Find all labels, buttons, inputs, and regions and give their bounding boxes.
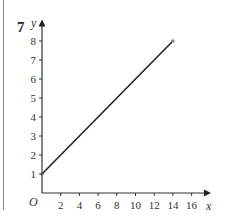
x-tick-label: 12 — [149, 199, 160, 211]
axes: xyO — [29, 16, 212, 213]
y-tick-label: 1 — [31, 168, 37, 180]
x-tick-label: 6 — [95, 199, 101, 211]
y-tick-label: 3 — [31, 130, 37, 142]
line-chart: xyO 24681012141612345678 — [0, 0, 227, 217]
y-tick-label: 4 — [31, 111, 37, 123]
x-tick-label: 4 — [77, 199, 83, 211]
x-tick-label: 8 — [114, 199, 120, 211]
x-tick-label: 16 — [186, 199, 198, 211]
start-point-marker — [40, 172, 43, 175]
y-tick-label: 7 — [31, 54, 37, 66]
y-tick-label: 6 — [31, 73, 37, 85]
y-axis-arrow-icon — [39, 20, 46, 27]
y-tick-label: 2 — [31, 149, 37, 161]
x-tick-label: 14 — [167, 199, 179, 211]
origin-label: O — [29, 195, 38, 209]
ticks: 24681012141612345678 — [31, 35, 198, 211]
y-tick-label: 5 — [31, 92, 37, 104]
x-tick-label: 2 — [58, 199, 64, 211]
x-axis-arrow-icon — [204, 190, 211, 197]
x-axis-label: x — [205, 199, 212, 213]
endpoint-marker — [171, 39, 175, 43]
x-tick-label: 10 — [130, 199, 142, 211]
y-axis-label: y — [30, 16, 37, 30]
data-series — [40, 39, 174, 175]
data-line — [42, 41, 173, 174]
y-tick-label: 8 — [31, 35, 37, 47]
